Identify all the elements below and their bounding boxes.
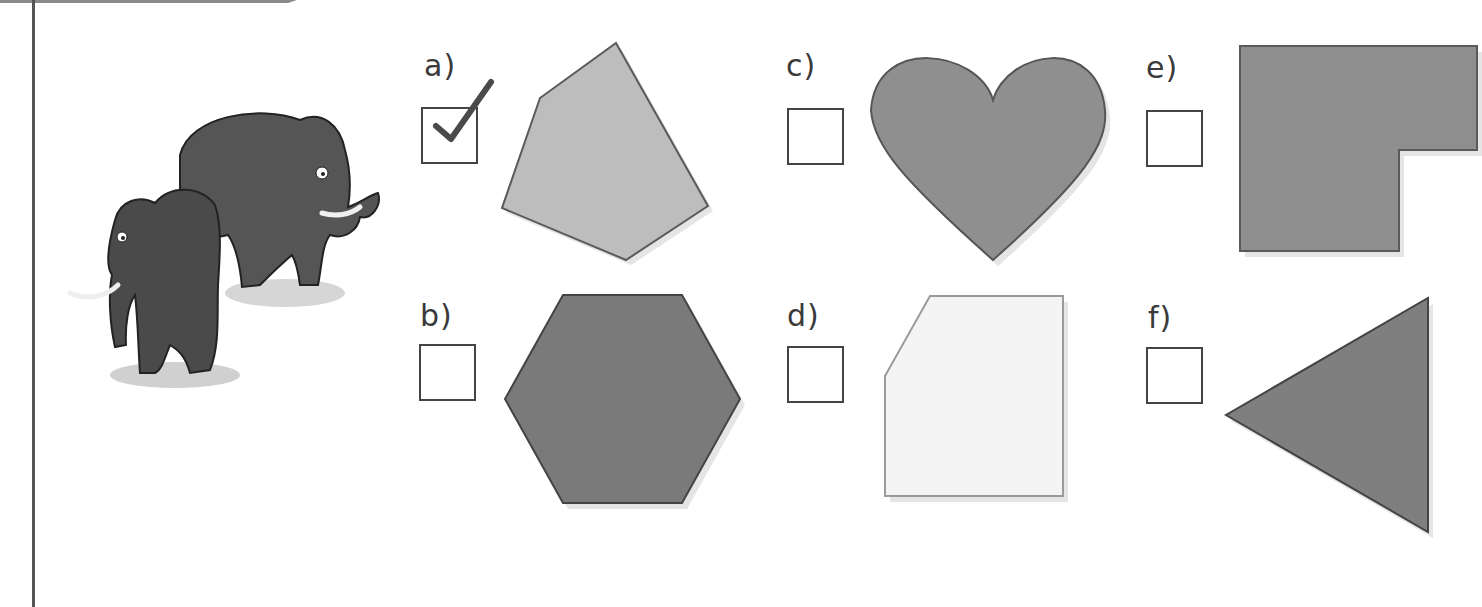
option-d-checkbox[interactable] xyxy=(787,346,844,403)
option-a-label: a) xyxy=(424,48,456,83)
option-c-label: c) xyxy=(786,48,816,83)
option-e-label: e) xyxy=(1146,50,1178,85)
option-b-label: b) xyxy=(420,298,453,333)
option-c-checkbox[interactable] xyxy=(787,108,844,165)
option-d-label: d) xyxy=(787,298,820,333)
page-margin-line xyxy=(32,0,35,607)
option-e-shape-l-shape[interactable] xyxy=(1237,43,1482,258)
option-f-checkbox[interactable] xyxy=(1146,347,1203,404)
option-e-checkbox[interactable] xyxy=(1146,110,1203,167)
option-a-checkbox[interactable] xyxy=(421,107,478,164)
header-bar xyxy=(0,0,297,3)
option-b-checkbox[interactable] xyxy=(419,344,476,401)
option-d-shape-cut-corner[interactable] xyxy=(882,293,1072,508)
option-f-shape-triangle[interactable] xyxy=(1222,295,1437,540)
option-b-shape-hexagon[interactable] xyxy=(503,292,748,512)
mammoth-illustration-icon xyxy=(60,95,390,390)
option-f-label: f) xyxy=(1148,300,1172,335)
option-c-shape-heart[interactable] xyxy=(868,40,1113,265)
option-a-shape-pentagon[interactable] xyxy=(498,40,713,265)
